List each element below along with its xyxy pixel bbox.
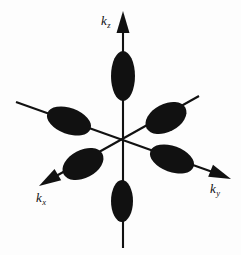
axis-label-kz-sub: z xyxy=(106,20,111,30)
axis-label-ky-main: k xyxy=(210,181,216,196)
kz-positive-pocket xyxy=(111,51,135,101)
axis-label-kz-main: k xyxy=(101,13,107,28)
figure-canvas: kz ky kx xyxy=(0,0,241,255)
kspace-diagram: kz ky kx xyxy=(0,0,241,255)
kz-negative-pocket xyxy=(111,180,133,222)
axis-label-ky-sub: y xyxy=(215,188,220,198)
axis-label-kx-main: k xyxy=(36,190,42,205)
axis-label-kx-sub: x xyxy=(41,197,46,207)
